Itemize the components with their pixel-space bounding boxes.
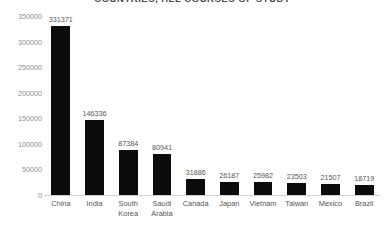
y-axis-tick: 350000 bbox=[0, 12, 42, 21]
bar-slot bbox=[119, 16, 138, 195]
bar[interactable] bbox=[85, 120, 104, 195]
bar-value-label: 331371 bbox=[44, 15, 78, 24]
bar-chart: COUNTRIES, ALL COURSES OF STUDY 35000030… bbox=[0, 0, 385, 240]
bar[interactable] bbox=[153, 154, 172, 195]
x-axis-category-label: Brazil bbox=[347, 199, 381, 209]
x-axis-line bbox=[44, 195, 381, 196]
x-axis-category-label: China bbox=[44, 199, 78, 209]
y-axis: 3500003000002500002000001500001000005000… bbox=[0, 0, 42, 240]
bar-value-label: 26187 bbox=[213, 171, 247, 180]
x-axis-category-label: India bbox=[78, 199, 112, 209]
x-axis-category-label: Vietnam bbox=[246, 199, 280, 209]
bar-value-label: 21507 bbox=[314, 173, 348, 182]
bar-value-label: 146336 bbox=[78, 109, 112, 118]
plot-area bbox=[44, 16, 381, 195]
x-axis-category-label: Japan bbox=[213, 199, 247, 209]
x-axis-category-label: Canada bbox=[179, 199, 213, 209]
bar[interactable] bbox=[254, 182, 273, 195]
y-axis-tick: 100000 bbox=[0, 139, 42, 148]
bar-value-label: 80941 bbox=[145, 143, 179, 152]
bar[interactable] bbox=[220, 182, 239, 195]
bar[interactable] bbox=[119, 150, 138, 195]
y-axis-tick: 0 bbox=[0, 191, 42, 200]
chart-title: COUNTRIES, ALL COURSES OF STUDY bbox=[0, 0, 385, 4]
x-axis-category-label: SouthKorea bbox=[111, 199, 145, 219]
bar-slot bbox=[51, 16, 70, 195]
bar-slot bbox=[287, 16, 306, 195]
y-axis-tick: 150000 bbox=[0, 114, 42, 123]
bar[interactable] bbox=[51, 26, 70, 195]
bar-slot bbox=[254, 16, 273, 195]
bar-value-label: 87384 bbox=[111, 139, 145, 148]
y-axis-tick: 200000 bbox=[0, 88, 42, 97]
bar-value-label: 25982 bbox=[246, 171, 280, 180]
bar-slot bbox=[355, 16, 374, 195]
bar[interactable] bbox=[287, 183, 306, 195]
y-axis-tick: 300000 bbox=[0, 37, 42, 46]
bar[interactable] bbox=[186, 179, 205, 195]
x-axis-category-label: Taiwan bbox=[280, 199, 314, 209]
bar-value-label: 31886 bbox=[179, 168, 213, 177]
bar[interactable] bbox=[355, 185, 374, 195]
x-axis-category-label: Mexico bbox=[314, 199, 348, 209]
bar-slot bbox=[220, 16, 239, 195]
x-axis-category-label: SaudiArabia bbox=[145, 199, 179, 219]
bar-slot bbox=[321, 16, 340, 195]
y-axis-tick: 250000 bbox=[0, 63, 42, 72]
bar-value-label: 23503 bbox=[280, 172, 314, 181]
bar-slot bbox=[153, 16, 172, 195]
y-axis-tick: 50000 bbox=[0, 165, 42, 174]
bar-value-label: 18719 bbox=[347, 174, 381, 183]
bar-slot bbox=[85, 16, 104, 195]
bar[interactable] bbox=[321, 184, 340, 195]
